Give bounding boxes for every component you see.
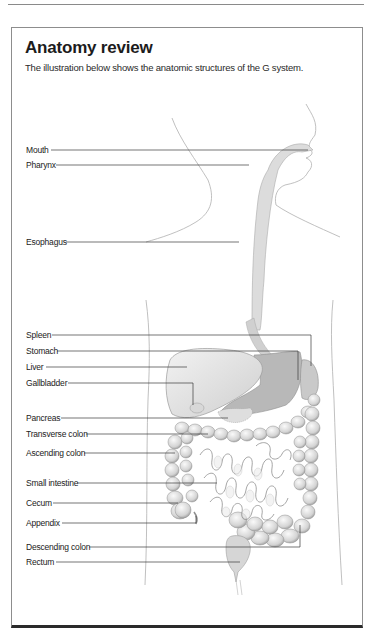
label-cecum: Cecum: [26, 498, 52, 508]
label-pharynx: Pharynx: [26, 160, 56, 170]
label-descending-colon: Descending colon: [26, 542, 90, 552]
label-esophagus: Esophagus: [26, 237, 67, 247]
label-appendix: Appendix: [26, 518, 60, 528]
label-small-intestine: Small intestine: [26, 478, 78, 488]
appendix-shape: [194, 512, 197, 524]
label-ascending-colon: Ascending colon: [26, 448, 85, 458]
label-transverse-colon: Transverse colon: [26, 429, 88, 439]
rectum-shape: [226, 536, 250, 582]
gallbladder-shape: [190, 403, 204, 413]
label-rectum: Rectum: [26, 557, 54, 567]
label-liver: Liver: [26, 362, 43, 372]
small-intestine-shape: [200, 443, 291, 520]
cecum-shape: [175, 502, 191, 518]
label-gallbladder: Gallbladder: [26, 378, 67, 388]
label-mouth: Mouth: [26, 145, 49, 155]
spleen-shape: [301, 360, 319, 400]
label-stomach: Stomach: [26, 346, 58, 356]
label-pancreas: Pancreas: [26, 413, 60, 423]
pancreas-shape: [218, 408, 252, 423]
label-spleen: Spleen: [26, 330, 51, 340]
